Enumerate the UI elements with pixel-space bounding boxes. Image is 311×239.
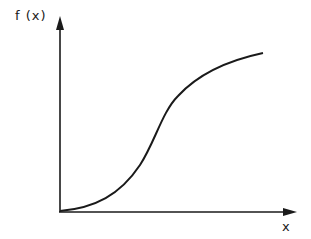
y-axis-arrow-icon xyxy=(56,16,64,30)
function-curve xyxy=(60,53,263,211)
x-axis-label: x xyxy=(282,219,291,234)
y-axis-label: f (x) xyxy=(15,8,47,23)
x-axis-arrow-icon xyxy=(283,208,297,216)
chart-canvas xyxy=(0,0,311,239)
